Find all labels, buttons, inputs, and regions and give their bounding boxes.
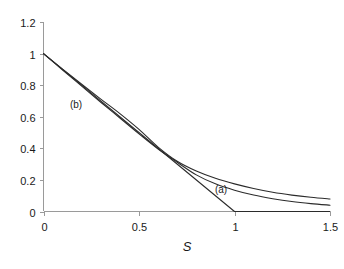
x-tick-label: 1.5 [323, 221, 338, 233]
x-axis-tick-labels: 00.511.5 [41, 221, 338, 233]
x-axis: 00.511.5 [41, 212, 338, 233]
curve-annotation-a: (a) [215, 184, 227, 195]
y-tick-label: 0 [29, 207, 35, 219]
data-curve-upper-curve [44, 54, 331, 199]
x-tick-label: 1 [232, 221, 238, 233]
y-axis-tick-labels: 00.20.40.60.811.2 [20, 17, 35, 219]
y-tick-label: 1.2 [20, 17, 35, 29]
data-curve-piecewise-linear-curve [44, 54, 331, 212]
chart-figure: 00.20.40.60.811.2 00.511.5 (a)(b) S [0, 0, 344, 269]
y-tick-label: 1 [29, 49, 35, 61]
data-series-group [44, 54, 331, 212]
x-axis-title: S [183, 239, 192, 254]
curve-annotations: (a)(b) [70, 99, 227, 195]
y-axis-ticks [40, 23, 44, 213]
y-tick-label: 0.4 [20, 143, 35, 155]
data-curve-lower-curve [44, 54, 331, 206]
y-tick-label: 0.6 [20, 112, 35, 124]
y-tick-label: 0.8 [20, 80, 35, 92]
x-axis-ticks [45, 212, 331, 216]
y-tick-label: 0.2 [20, 175, 35, 187]
curve-annotation-b: (b) [70, 99, 82, 110]
y-axis: 00.20.40.60.811.2 [20, 17, 43, 219]
chart-plot-area: 00.20.40.60.811.2 00.511.5 (a)(b) S [0, 0, 344, 269]
x-tick-label: 0.5 [132, 221, 147, 233]
x-tick-label: 0 [41, 221, 47, 233]
